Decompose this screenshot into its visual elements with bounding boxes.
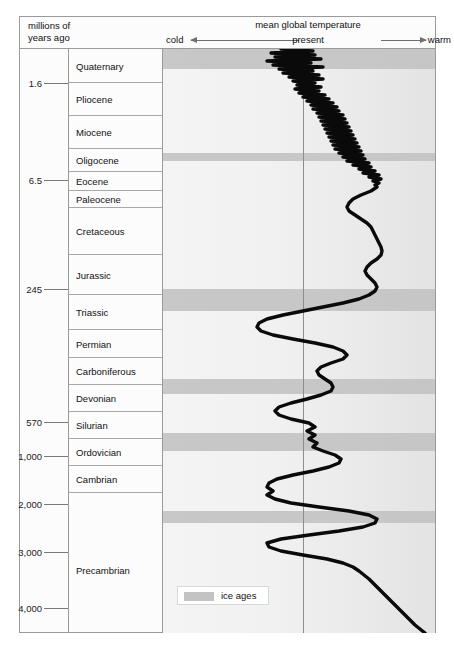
period-label: Ordovician [76,447,121,458]
tick-label: 4,000 [18,603,42,614]
period-row[interactable]: Jurassic [69,255,162,295]
tick-mark [44,422,68,423]
period-row[interactable]: Pliocene [69,83,162,116]
period-row[interactable]: Precambrian [69,493,162,633]
period-row[interactable]: Devonian [69,385,162,412]
period-label: Cambrian [76,474,117,485]
period-label: Carboniferous [76,366,136,377]
chart-title: mean global temperature [163,19,453,30]
years-ago-caption: millions of years ago [28,20,106,43]
temperature-plot [163,49,435,633]
temperature-curve [163,49,435,633]
legend-box: ice ages [177,586,269,605]
chart-header: millions of years ago mean global temper… [20,17,435,49]
period-label: Eocene [76,176,108,187]
tick-mark [44,289,68,290]
tick-mark [44,608,68,609]
ice-ages-label: ice ages [221,590,256,601]
period-row[interactable]: Miocene [69,116,162,149]
period-row[interactable]: Eocene [69,172,162,191]
tick-label: 1,000 [18,451,42,462]
period-label: Pliocene [76,94,112,105]
tick-mark [44,552,68,553]
period-label: Triassic [76,307,108,318]
period-row[interactable]: Paleocene [69,191,162,208]
years-ago-line2: years ago [28,32,106,44]
period-row[interactable]: Ordovician [69,439,162,466]
period-row[interactable]: Cambrian [69,466,162,493]
period-row[interactable]: Permian [69,330,162,358]
period-label: Permian [76,338,111,349]
period-row[interactable]: Silurian [69,412,162,439]
period-row[interactable]: Triassic [69,295,162,330]
period-row[interactable]: Cretaceous [69,208,162,255]
tick-label: 1.6 [29,78,42,89]
tick-mark [44,504,68,505]
period-row[interactable]: Oligocene [69,149,162,172]
period-label: Cretaceous [76,226,125,237]
period-label: Paleocene [76,194,121,205]
years-ago-line1: millions of [28,20,106,32]
tick-label: 6.5 [29,175,42,186]
ice-ages-swatch [184,592,214,601]
geologic-temperature-chart: millions of years ago mean global temper… [0,0,454,650]
tick-mark [44,180,68,181]
period-label: Devonian [76,393,116,404]
tick-mark [44,456,68,457]
axis-warm-label: warm [428,34,451,45]
period-label: Quaternary [76,60,124,71]
tick-label: 3,000 [18,547,42,558]
period-label: Precambrian [76,565,130,576]
temperature-axis: cold present warm [163,32,453,46]
tick-label: 245 [26,284,42,295]
period-row[interactable]: Carboniferous [69,358,162,385]
period-label: Silurian [76,420,108,431]
tick-label: 2,000 [18,499,42,510]
period-label: Oligocene [76,155,119,166]
period-label: Miocene [76,127,112,138]
geologic-periods-column: QuaternaryPlioceneMioceneOligoceneEocene… [69,49,162,633]
warm-arrow-icon [381,40,426,41]
period-row[interactable]: Quaternary [69,49,162,83]
tick-mark [44,83,68,84]
period-label: Jurassic [76,269,111,280]
time-axis-ticks: 1.66.52455701,0002,0003,0004,000 [20,49,68,633]
tick-label: 570 [26,417,42,428]
